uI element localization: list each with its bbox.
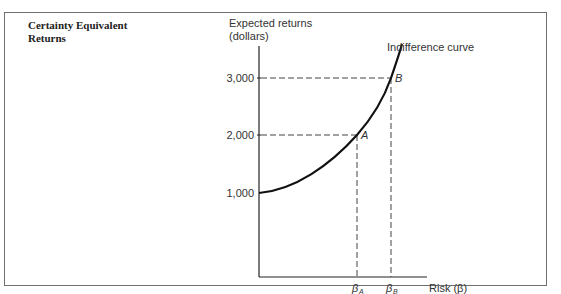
svg-text:β: β — [351, 282, 359, 294]
svg-text:β: β — [385, 282, 393, 294]
y-axis-label-line1: Expected returns — [229, 17, 313, 29]
y-tick-3000: 3,000 — [226, 72, 254, 84]
point-a-label: A — [360, 129, 368, 141]
y-tick-2000: 2,000 — [226, 129, 254, 141]
svg-text:B: B — [393, 288, 398, 294]
x-tick-beta-a: β A — [351, 282, 364, 294]
y-axis-label-line2: (dollars) — [229, 30, 269, 42]
y-tick-1000: 1,000 — [226, 187, 254, 199]
point-b-label: B — [395, 72, 402, 84]
curve-label: Indifference curve — [387, 41, 474, 53]
x-tick-beta-b: β B — [385, 282, 398, 294]
indifference-curve-chart: Expected returns (dollars) 3,000 2,000 1… — [0, 0, 561, 294]
svg-text:A: A — [358, 288, 364, 294]
x-axis-label: Risk (β) — [429, 282, 467, 294]
indifference-curve-line — [259, 44, 402, 193]
